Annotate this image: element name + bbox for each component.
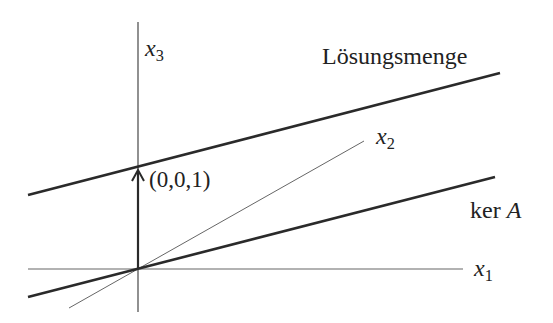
kernel-label: ker A	[470, 198, 521, 222]
x3-axis-label: x3	[145, 36, 164, 64]
diagram-graphics	[0, 0, 553, 323]
x1-axis-label: x1	[474, 256, 493, 284]
vector-label: (0,0,1)	[149, 168, 210, 191]
kernel-line	[28, 177, 495, 297]
x2-axis-label: x2	[376, 124, 395, 152]
solution-set-line	[28, 73, 500, 195]
diagram-canvas: x3 Lösungsmenge x2 (0,0,1) ker A x1	[0, 0, 553, 323]
solution-set-label: Lösungsmenge	[322, 44, 467, 68]
x2-axis	[69, 141, 364, 308]
